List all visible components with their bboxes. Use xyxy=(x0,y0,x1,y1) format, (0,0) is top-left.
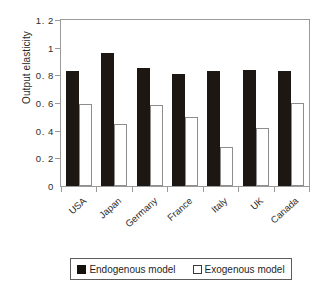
filled-square-icon xyxy=(77,265,86,274)
bar-group xyxy=(96,20,131,186)
y-tick-label: 0 xyxy=(14,181,54,192)
bar-exogenous[interactable] xyxy=(185,117,198,186)
bar-endogenous[interactable] xyxy=(278,71,291,187)
bar-endogenous[interactable] xyxy=(137,68,150,186)
bar-endogenous[interactable] xyxy=(172,74,185,186)
bar-exogenous[interactable] xyxy=(150,105,163,186)
y-tick-label: 0. 2 xyxy=(14,153,54,164)
legend-label: Endogenous model xyxy=(89,264,175,275)
legend-label: Exogenous model xyxy=(205,264,285,275)
y-tick-label: 1. 2 xyxy=(14,15,54,26)
bar-group xyxy=(61,20,96,186)
x-tick-mark xyxy=(167,187,168,192)
bar-exogenous[interactable] xyxy=(220,147,233,186)
y-tick-label: 0. 4 xyxy=(14,125,54,136)
bar-exogenous[interactable] xyxy=(291,103,304,186)
bar-group xyxy=(274,20,309,186)
x-tick-mark xyxy=(61,187,62,192)
bar-exogenous[interactable] xyxy=(256,128,269,186)
x-tick-mark xyxy=(238,187,239,192)
x-tick-mark xyxy=(96,187,97,192)
bars-layer xyxy=(61,20,309,186)
bar-endogenous[interactable] xyxy=(66,71,79,186)
bar-endogenous[interactable] xyxy=(243,70,256,186)
hollow-square-icon xyxy=(193,265,202,274)
bar-exogenous[interactable] xyxy=(79,104,92,186)
x-tick-mark xyxy=(309,187,310,192)
bar-group xyxy=(203,20,238,186)
bar-endogenous[interactable] xyxy=(101,53,114,186)
x-tick-mark xyxy=(274,187,275,192)
bar-exogenous[interactable] xyxy=(114,124,127,186)
y-tick-label: 0. 8 xyxy=(14,70,54,81)
x-tick-mark xyxy=(203,187,204,192)
legend-entry[interactable]: Endogenous model xyxy=(77,264,175,275)
bar-group xyxy=(132,20,167,186)
y-tick-label: 1 xyxy=(14,42,54,53)
x-tick-mark xyxy=(132,187,133,192)
bar-group xyxy=(167,20,202,186)
y-tick-label: 0. 6 xyxy=(14,98,54,109)
bar-group xyxy=(238,20,273,186)
bar-endogenous[interactable] xyxy=(207,71,220,186)
chart-legend: Endogenous modelExogenous model xyxy=(70,258,292,280)
legend-entry[interactable]: Exogenous model xyxy=(193,264,285,275)
chart-figure: Output elasticity 00. 20. 40. 60. 811. 2… xyxy=(0,0,327,290)
